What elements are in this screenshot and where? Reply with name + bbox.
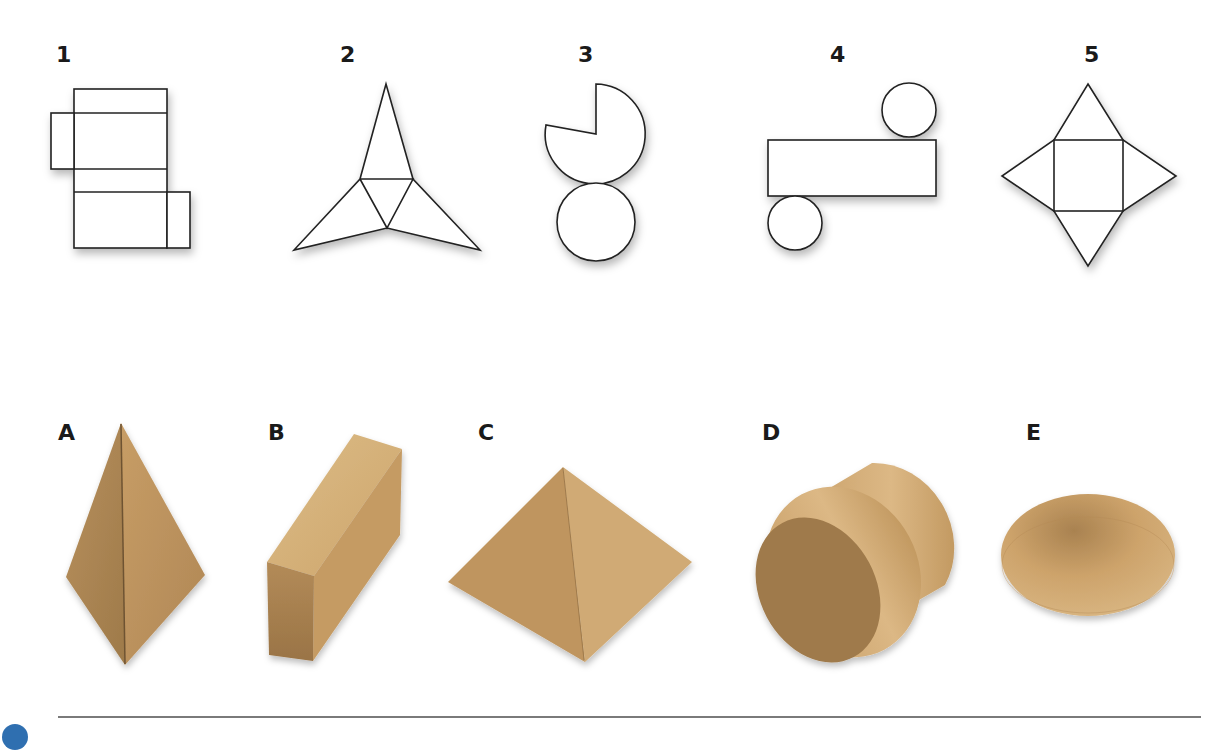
solid-b-cuboid [267, 434, 402, 661]
net-5-square-pyramid [1002, 84, 1176, 266]
solid-c-square-pyramid [448, 467, 692, 662]
net-4-cylinder [768, 83, 936, 250]
horizontal-rule [58, 716, 1201, 718]
solid-d-cylinder [731, 459, 954, 685]
page-marker-icon [2, 724, 28, 750]
net-2-triangular-pyramid [294, 84, 480, 250]
solid-e-cone [1001, 494, 1175, 616]
solid-a-triangular-pyramid [66, 423, 205, 665]
net-3-cone [545, 84, 645, 261]
